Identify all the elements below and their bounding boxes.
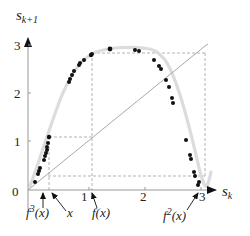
y-tick-3: 3 xyxy=(14,38,21,53)
x-axis-label: sk xyxy=(222,183,233,201)
x-tick-1: 1 xyxy=(81,189,88,204)
y-tick-1: 1 xyxy=(14,134,21,149)
annotation-fx: f(x) xyxy=(92,205,110,220)
return-map-figure: 3 2 1 0 1 2 3 sk+1 sk xyxy=(0,0,250,236)
x-arrow xyxy=(52,193,66,211)
identity-diagonal-extension xyxy=(205,44,208,46)
x-tick-2: 2 xyxy=(140,189,147,204)
y-axis-label: sk+1 xyxy=(16,7,38,25)
x-tick-3: 3 xyxy=(199,189,206,204)
chart-canvas: 3 2 1 0 1 2 3 sk+1 sk xyxy=(0,0,250,236)
origin-label: 0 xyxy=(12,184,19,199)
annotation-f3x: f3(x) xyxy=(26,203,49,220)
annotation-f2x: f2(x) xyxy=(163,206,186,223)
map-curve xyxy=(30,47,211,186)
y-tick-2: 2 xyxy=(14,86,21,101)
annotation-x: x xyxy=(66,205,73,220)
f2x-arrow xyxy=(187,193,198,210)
